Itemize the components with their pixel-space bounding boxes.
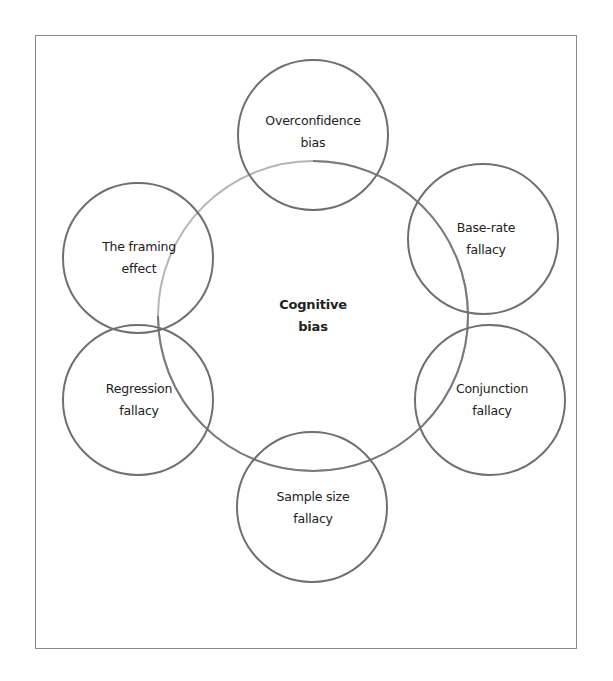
framing-label: The framing effect [102, 236, 176, 280]
center-label-line2: bias [279, 316, 347, 338]
cognitive-bias-diagram [0, 0, 613, 681]
center-label-line1: Cognitive [279, 294, 347, 316]
regression-label: Regression fallacy [106, 378, 172, 422]
base-rate-label: Base-rate fallacy [457, 217, 516, 261]
center-label: Cognitive bias [279, 294, 347, 338]
conjunction-label: Conjunction fallacy [456, 378, 528, 422]
overconfidence-label: Overconfidence bias [265, 110, 360, 154]
sample-size-label: Sample size fallacy [277, 486, 350, 530]
